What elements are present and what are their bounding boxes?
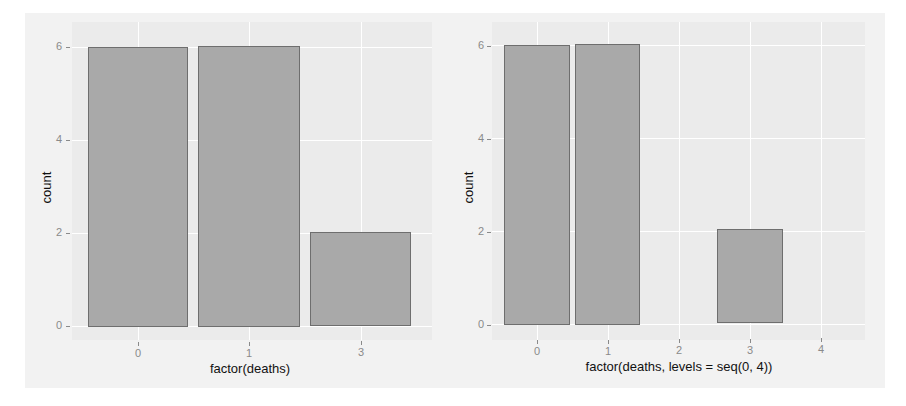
x-tick bbox=[750, 339, 751, 343]
y-tick-label: 0 bbox=[464, 318, 484, 330]
y-axis-label: count bbox=[39, 158, 54, 218]
y-tick bbox=[66, 233, 70, 234]
y-tick bbox=[487, 46, 491, 47]
y-tick-label: 6 bbox=[464, 39, 484, 51]
y-tick-label: 2 bbox=[464, 225, 484, 237]
x-tick bbox=[679, 339, 680, 343]
gridline bbox=[679, 22, 680, 340]
bar-1 bbox=[198, 46, 300, 327]
y-tick bbox=[487, 232, 491, 233]
bar-1 bbox=[575, 44, 640, 325]
x-tick-label: 3 bbox=[740, 344, 760, 356]
x-tick bbox=[821, 338, 822, 342]
x-tick bbox=[361, 341, 362, 345]
x-tick-label: 2 bbox=[669, 344, 689, 356]
bar-3 bbox=[717, 229, 783, 323]
y-tick bbox=[66, 140, 70, 141]
y-tick bbox=[66, 47, 70, 48]
x-tick-label: 3 bbox=[351, 346, 371, 358]
x-axis-label: factor(deaths) bbox=[190, 361, 310, 376]
y-tick-label: 4 bbox=[464, 132, 484, 144]
x-tick-label: 4 bbox=[811, 343, 831, 355]
x-tick-label: 1 bbox=[598, 345, 618, 357]
y-tick-label: 6 bbox=[42, 40, 62, 52]
x-tick-label: 1 bbox=[239, 347, 259, 359]
x-tick bbox=[537, 340, 538, 344]
x-tick bbox=[138, 342, 139, 346]
y-tick-label: 4 bbox=[42, 133, 62, 145]
x-tick-label: 0 bbox=[128, 347, 148, 359]
bar-0 bbox=[88, 47, 188, 327]
y-tick bbox=[66, 326, 70, 327]
bar-3 bbox=[310, 232, 411, 326]
y-tick-label: 0 bbox=[42, 319, 62, 331]
x-tick bbox=[249, 342, 250, 346]
y-tick bbox=[487, 139, 491, 140]
x-tick bbox=[608, 340, 609, 344]
x-axis-label: factor(deaths, levels = seq(0, 4)) bbox=[554, 359, 804, 374]
y-tick bbox=[487, 325, 491, 326]
y-tick-label: 2 bbox=[42, 226, 62, 238]
gridline bbox=[821, 22, 822, 340]
y-axis-label: count bbox=[461, 158, 476, 218]
x-tick-label: 0 bbox=[527, 345, 547, 357]
bar-0 bbox=[504, 45, 570, 325]
